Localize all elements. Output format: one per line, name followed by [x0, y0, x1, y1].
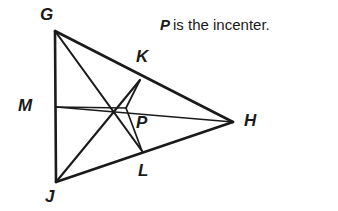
geometry-figure: G J H K L M P Pis the incenter. [0, 0, 338, 211]
figure-caption: Pis the incenter. [160, 17, 270, 32]
point-label-H: H [244, 112, 256, 129]
point-label-M: M [18, 97, 32, 114]
point-label-P: P [136, 114, 147, 131]
point-label-J: J [45, 188, 54, 205]
point-label-L: L [138, 162, 148, 179]
segment-inradius-P-to-M [56, 107, 126, 108]
caption-variable: P [160, 16, 173, 33]
point-label-G: G [40, 6, 53, 23]
caption-text: is the incenter. [173, 16, 270, 33]
point-label-K: K [136, 48, 148, 65]
